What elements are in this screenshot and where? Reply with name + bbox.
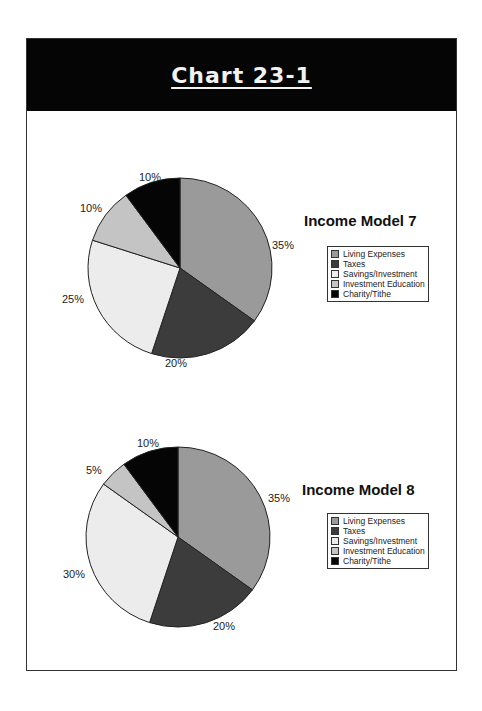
- legend-item: Taxes: [331, 259, 425, 269]
- legend-item: Taxes: [331, 526, 425, 536]
- pie2-legend: Living Expenses Taxes Savings/Investment…: [327, 513, 429, 569]
- pie-chart-model-8: [78, 441, 278, 633]
- chart-header: Chart 23-1: [27, 39, 456, 111]
- pie2-label-charity: 10%: [137, 437, 159, 449]
- swatch-icon: [331, 557, 339, 565]
- swatch-icon: [331, 260, 339, 268]
- pie1-label-living: 35%: [272, 239, 294, 251]
- pie1-legend: Living Expenses Taxes Savings/Investment…: [327, 246, 429, 302]
- swatch-icon: [331, 280, 339, 288]
- legend-item: Charity/Tithe: [331, 556, 425, 566]
- pie1-label-savings: 25%: [62, 293, 84, 305]
- legend-item: Living Expenses: [331, 249, 425, 259]
- pie2-label-living: 35%: [268, 492, 290, 504]
- swatch-icon: [331, 290, 339, 298]
- legend-item: Investment Education: [331, 279, 425, 289]
- legend-item: Charity/Tithe: [331, 289, 425, 299]
- pie2-label-savings: 30%: [63, 568, 85, 580]
- swatch-icon: [331, 537, 339, 545]
- legend-item: Savings/Investment: [331, 269, 425, 279]
- legend-item: Investment Education: [331, 546, 425, 556]
- pie1-label-education: 10%: [80, 202, 102, 214]
- chart-title: Chart 23-1: [171, 63, 312, 88]
- pie2-label-taxes: 20%: [213, 620, 235, 632]
- swatch-icon: [331, 270, 339, 278]
- pie1-label-charity: 10%: [139, 171, 161, 183]
- legend-item: Living Expenses: [331, 516, 425, 526]
- pie-chart-model-7: [80, 172, 280, 364]
- pie2-label-education: 5%: [86, 464, 102, 476]
- legend-item: Savings/Investment: [331, 536, 425, 546]
- pie2-title: Income Model 8: [302, 481, 415, 498]
- swatch-icon: [331, 547, 339, 555]
- swatch-icon: [331, 250, 339, 258]
- swatch-icon: [331, 527, 339, 535]
- pie1-title: Income Model 7: [304, 212, 417, 229]
- pie1-label-taxes: 20%: [165, 357, 187, 369]
- swatch-icon: [331, 517, 339, 525]
